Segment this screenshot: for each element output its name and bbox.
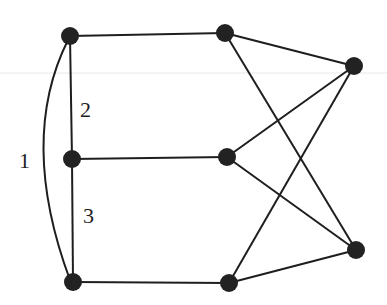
node-l3 <box>64 273 82 291</box>
edge-m3-r2 <box>229 250 356 283</box>
edge-l2-m2 <box>72 157 227 159</box>
node-r2 <box>347 241 365 259</box>
node-m3 <box>220 274 238 292</box>
edge-m2-r2 <box>227 157 356 250</box>
edge-m1-r1 <box>225 33 354 66</box>
edge-label-1: 1 <box>19 148 30 173</box>
node-r1 <box>345 57 363 75</box>
edge-l1-m1 <box>70 33 225 36</box>
edge-l1-l2 <box>70 36 72 159</box>
edge-label-2: 2 <box>80 97 91 122</box>
edge-label-3: 3 <box>83 203 94 228</box>
edge-m1-r2 <box>225 33 356 250</box>
edge-l2-l3 <box>72 159 73 282</box>
edge-m3-r1 <box>229 66 354 283</box>
node-l1 <box>61 27 79 45</box>
node-m1 <box>216 24 234 42</box>
node-l2 <box>63 150 81 168</box>
edge-l3-m3 <box>73 282 229 283</box>
node-m2 <box>218 148 236 166</box>
graph-diagram: 1 2 3 <box>0 0 387 305</box>
